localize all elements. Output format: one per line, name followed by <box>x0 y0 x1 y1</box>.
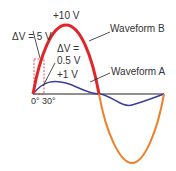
waveform-b-negative-half <box>99 94 164 163</box>
sine-waveform-diagram: +10 V ΔV = 5 V ΔV = 0.5 V +1 V Waveform … <box>0 0 176 171</box>
waveform-b-leader-line <box>89 32 110 41</box>
waveform-b-label: Waveform B <box>110 23 165 34</box>
delta-a-label-line2: 0.5 V <box>57 55 81 66</box>
tick-0-degrees: 0° <box>31 96 40 106</box>
waveform-a-label: Waveform A <box>111 66 165 77</box>
tick-30-degrees: 30° <box>42 96 56 106</box>
waveform-a-leader-line <box>90 73 110 82</box>
delta-b-label: ΔV = 5 V <box>12 31 52 42</box>
peak-a-label: +1 V <box>57 69 78 80</box>
peak-b-label: +10 V <box>53 10 80 21</box>
delta-a-label-line1: ΔV = <box>57 43 79 54</box>
